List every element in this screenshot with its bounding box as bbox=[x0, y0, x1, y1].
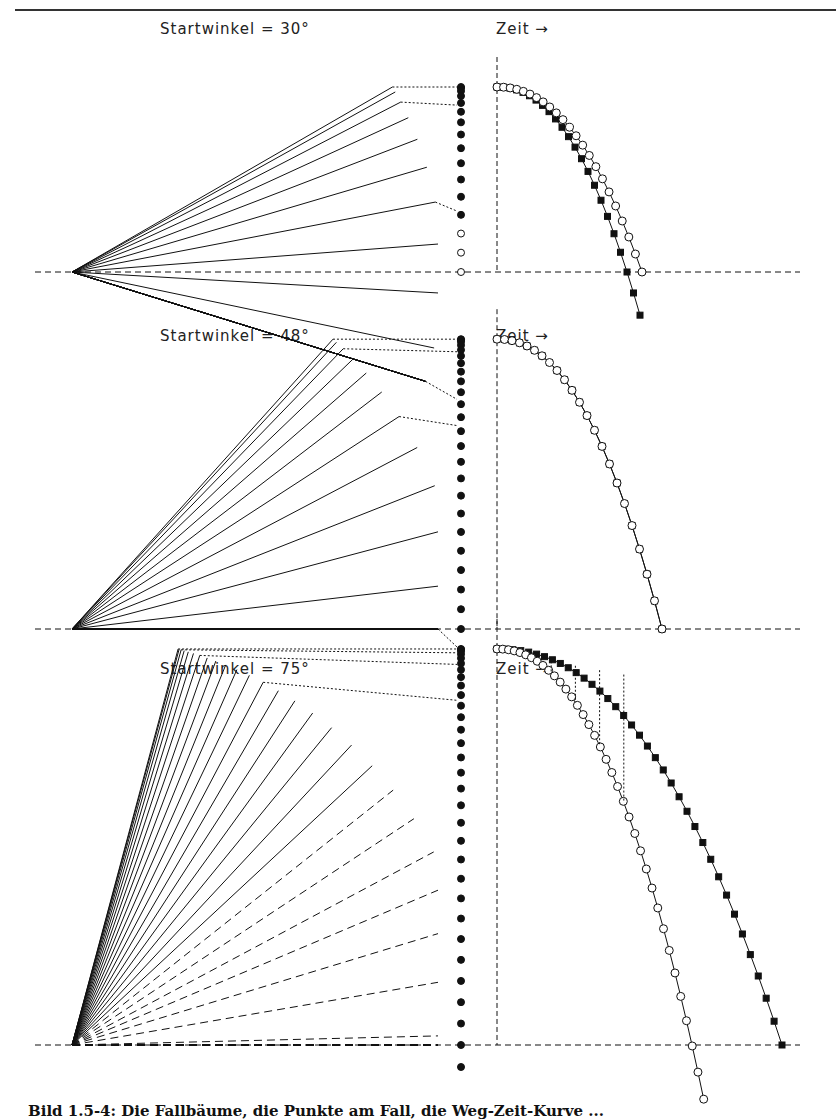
figure-caption: Bild 1.5-4: Die Fallbäume, die Punkte am… bbox=[28, 1102, 604, 1120]
